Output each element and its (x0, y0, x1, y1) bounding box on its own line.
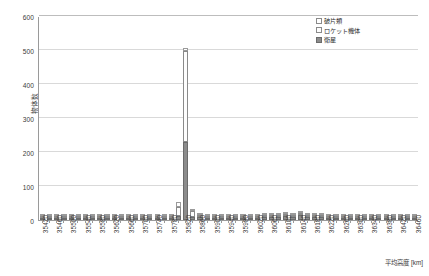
x-slot: 36100 (282, 223, 289, 265)
bar-slot (354, 17, 361, 220)
bar-slot (347, 17, 354, 220)
x-slot: 35420 (38, 223, 45, 265)
legend-label: ロケット機体 (324, 26, 360, 36)
x-axis-tick (92, 220, 93, 223)
x-slot: 36060 (268, 223, 275, 265)
x-slot: 36300 (354, 223, 361, 265)
bar-slot (318, 17, 325, 220)
x-slot: 35940 (224, 223, 231, 265)
bar-slot (96, 17, 103, 220)
y-axis-tick-label: 200 (0, 150, 34, 157)
x-axis-tick (250, 220, 251, 223)
x-axis-tick (235, 220, 236, 223)
x-axis-tick (120, 220, 121, 223)
x-slot (88, 223, 95, 265)
bar-slot (53, 17, 60, 220)
bar-slot (368, 17, 375, 220)
x-slot: 36220 (325, 223, 332, 265)
x-axis-tick (207, 220, 208, 223)
bar-slot (154, 17, 161, 220)
bar-slot (39, 17, 46, 220)
x-slot (303, 223, 310, 265)
y-axis-tick-label: 600 (0, 14, 34, 21)
x-slot: 35580 (95, 223, 102, 265)
x-slot (217, 223, 224, 265)
bar-slot (311, 17, 318, 220)
x-slot (332, 223, 339, 265)
bar-slot (411, 17, 418, 220)
bar-slot (218, 17, 225, 220)
bar-slot (282, 17, 289, 220)
y-axis-tick-labels: 0100200300400500600 (0, 17, 34, 221)
x-slot: 35860 (196, 223, 203, 265)
bar-slot (182, 17, 189, 220)
bar-slot (89, 17, 96, 220)
legend-label: 衛星 (324, 35, 336, 45)
x-slot (246, 223, 253, 265)
bar-slot (139, 17, 146, 220)
bar-slot (68, 17, 75, 220)
x-axis-tick (393, 220, 394, 223)
gridline (39, 15, 418, 16)
x-axis-tick (307, 220, 308, 223)
bar-slot (196, 17, 203, 220)
x-slot (346, 223, 353, 265)
x-axis-tick (135, 220, 136, 223)
legend-item-debris[interactable]: 破片類 (316, 16, 360, 26)
chart-legend: 破片類ロケット機体衛星 (316, 16, 360, 45)
x-axis-tick (278, 220, 279, 223)
bar-slot (125, 17, 132, 220)
x-slot: 35980 (239, 223, 246, 265)
x-axis-tick (178, 220, 179, 223)
bar-slot (60, 17, 67, 220)
x-axis-tick (336, 220, 337, 223)
x-axis-tick-labels: 3542035460355003554035580356203566035700… (38, 223, 418, 265)
x-axis-tick (321, 220, 322, 223)
x-axis-title: 平均高度 [km] (385, 258, 423, 267)
bar-slot (82, 17, 89, 220)
bar-slot (247, 17, 254, 220)
legend-item-rocket[interactable]: ロケット機体 (316, 26, 360, 36)
x-slot (318, 223, 325, 265)
x-axis-tick (106, 220, 107, 223)
bar-slot (275, 17, 282, 220)
x-slot (375, 223, 382, 265)
x-slot (117, 223, 124, 265)
bar-slot (289, 17, 296, 220)
y-axis-tick-label: 400 (0, 82, 34, 89)
bar-slot (175, 17, 182, 220)
x-slot: 35620 (110, 223, 117, 265)
bar-slot (304, 17, 311, 220)
legend-swatch-debris (316, 18, 322, 24)
bar-slot (254, 17, 261, 220)
x-slot: 36340 (368, 223, 375, 265)
x-slot (232, 223, 239, 265)
chart-root: 物体数 0100200300400500600 3542035460355003… (0, 0, 429, 276)
bar-slot (111, 17, 118, 220)
x-slot (45, 223, 52, 265)
x-slot (174, 223, 181, 265)
x-slot: 35740 (153, 223, 160, 265)
x-axis-tick-label: 36460 (415, 215, 422, 233)
bar-slot (383, 17, 390, 220)
bar-slot (332, 17, 339, 220)
x-slot (361, 223, 368, 265)
x-slot: 36140 (296, 223, 303, 265)
bar-slot (325, 17, 332, 220)
x-slot (203, 223, 210, 265)
bar-slot (239, 17, 246, 220)
legend-label: 破片類 (324, 16, 342, 26)
bar-stack[interactable] (183, 48, 188, 220)
y-axis-tick-label: 0 (0, 218, 34, 225)
bar-slot (261, 17, 268, 220)
x-slot (131, 223, 138, 265)
bar-slot (375, 17, 382, 220)
bar-slot (297, 17, 304, 220)
x-slot (160, 223, 167, 265)
bar-slot (103, 17, 110, 220)
x-slot: 36260 (339, 223, 346, 265)
bar-segment-sat (183, 142, 188, 220)
bar-slot (397, 17, 404, 220)
x-axis-tick (264, 220, 265, 223)
legend-item-sat[interactable]: 衛星 (316, 35, 360, 45)
